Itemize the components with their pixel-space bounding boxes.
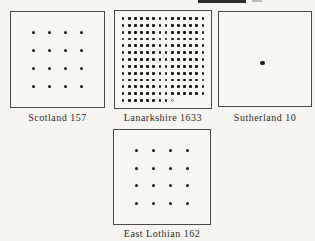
unit-dot [165, 17, 168, 20]
unit-dot [128, 17, 131, 20]
unit-dot [152, 51, 155, 54]
unit-dot [134, 31, 137, 34]
unit-dot [202, 92, 205, 95]
unit-dot [165, 79, 168, 82]
unit-dot [183, 31, 186, 34]
unit-dot [177, 92, 180, 95]
unit-dot [135, 202, 138, 205]
scan-artifact-mark [198, 0, 246, 3]
unit-dot [177, 51, 180, 54]
unit-dot [195, 65, 198, 68]
unit-dot [202, 85, 205, 88]
unit-dot [186, 149, 189, 152]
unit-dot [159, 24, 162, 27]
unit-dot [159, 44, 162, 47]
unit-dot [146, 79, 149, 82]
unit-dot [202, 31, 205, 34]
unit-dot [177, 17, 180, 20]
unit-dot [169, 184, 172, 187]
east-lothian-dot-grid [114, 130, 210, 224]
unit-dot [152, 38, 155, 41]
unit-dot [195, 31, 198, 34]
unit-dot [128, 85, 131, 88]
unit-dot [122, 24, 125, 27]
unit-dot [159, 51, 162, 54]
unit-dot [140, 31, 143, 34]
unit-dot [134, 17, 137, 20]
unit-dot [128, 38, 131, 41]
unit-dot [140, 51, 143, 54]
unit-dot [189, 79, 192, 82]
unit-dot [128, 44, 131, 47]
unit-dot [152, 99, 155, 102]
unit-dot [146, 24, 149, 27]
unit-dot [134, 79, 137, 82]
unit-dot [135, 184, 138, 187]
unit-dot [146, 92, 149, 95]
unit-dot [122, 44, 125, 47]
unit-dot [171, 65, 174, 68]
unit-dot [183, 92, 186, 95]
unit-dot [183, 65, 186, 68]
unit-dot [195, 58, 198, 61]
unit-dot [165, 44, 168, 47]
unit-dot [171, 79, 174, 82]
unit-dot [134, 44, 137, 47]
unit-dot [195, 38, 198, 41]
unit-dot [152, 92, 155, 95]
unit-dot [122, 65, 125, 68]
unit-dot [146, 72, 149, 75]
unit-dot [177, 58, 180, 61]
unit-dot [171, 72, 174, 75]
unit-dot [171, 85, 174, 88]
unit-dot [146, 17, 149, 20]
unit-dot [189, 85, 192, 88]
unit-dot [195, 79, 198, 82]
unit-dot [122, 92, 125, 95]
unit-dot [128, 92, 131, 95]
unit-dot [183, 17, 186, 20]
unit-dot [146, 85, 149, 88]
unit-dot [202, 17, 205, 20]
unit-dot [140, 58, 143, 61]
unit-dot [171, 31, 174, 34]
sutherland-dot-box [218, 11, 312, 107]
unit-dot [146, 65, 149, 68]
unit-dot [159, 31, 162, 34]
unit-dot [134, 72, 137, 75]
unit-dot [177, 38, 180, 41]
unit-dot [186, 167, 189, 170]
unit-dot [171, 24, 174, 27]
unit-dot [152, 44, 155, 47]
unit-dot [134, 65, 137, 68]
unit-dot [135, 167, 138, 170]
unit-dot [80, 31, 83, 34]
unit-dot [202, 79, 205, 82]
unit-dot [202, 72, 205, 75]
unit-dot [202, 24, 205, 27]
unit-dot [152, 167, 155, 170]
unit-dot [189, 38, 192, 41]
unit-dot [32, 67, 35, 70]
sutherland-dot-area [219, 12, 311, 106]
unit-dot [134, 51, 137, 54]
unit-dot [64, 49, 67, 52]
unit-dot [177, 24, 180, 27]
unit-dot [80, 49, 83, 52]
unit-dot [183, 51, 186, 54]
unit-dot [183, 85, 186, 88]
unit-dot [48, 85, 51, 88]
unit-dot [202, 51, 205, 54]
unit-dot [189, 92, 192, 95]
unit-dot [146, 99, 149, 102]
unit-dot [140, 79, 143, 82]
unit-dot [189, 24, 192, 27]
unit-dot [128, 24, 131, 27]
unit-dot [122, 31, 125, 34]
unit-dot [152, 58, 155, 61]
unit-dot [159, 58, 162, 61]
unit-dot [152, 202, 155, 205]
unit-dot [177, 31, 180, 34]
unit-dot [177, 65, 180, 68]
unit-dot [189, 44, 192, 47]
